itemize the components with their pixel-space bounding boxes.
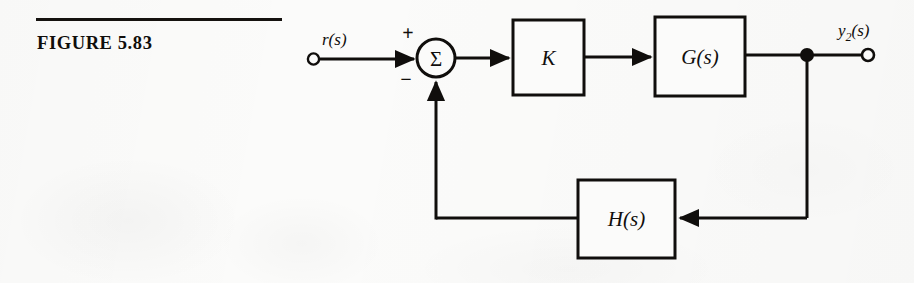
- output-signal-label-tail: (s): [852, 21, 870, 40]
- output-terminal-circle: [862, 49, 874, 61]
- figure-page: FIGURE 5.83 r(s) Σ + − K G(s): [0, 0, 914, 283]
- summing-junction-sigma-symbol: Σ: [430, 47, 442, 71]
- gain-block-label: K: [540, 46, 556, 70]
- output-signal-label-main: y: [836, 21, 846, 40]
- output-signal-label: y2(s): [836, 21, 870, 44]
- feedback-block-label: H(s): [607, 207, 645, 231]
- plus-sign-label: +: [402, 22, 413, 44]
- plant-block-label: G(s): [681, 45, 718, 69]
- block-diagram: r(s) Σ + − K G(s) y2(s) H(s): [0, 0, 914, 283]
- input-signal-label: r(s): [322, 30, 347, 49]
- input-terminal-circle: [308, 53, 319, 64]
- minus-sign-label: −: [400, 68, 411, 90]
